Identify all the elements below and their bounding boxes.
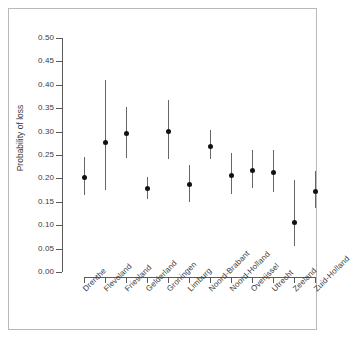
x-tick-label: Zuid-Holland xyxy=(312,254,351,293)
y-tick-label: 0.35 xyxy=(2,104,54,112)
data-point xyxy=(208,144,213,149)
y-tick-label: 0.45 xyxy=(2,57,54,65)
y-tick-label-text: 0.25 xyxy=(6,151,54,159)
data-point xyxy=(103,140,108,145)
data-point xyxy=(313,189,318,194)
data-point xyxy=(82,175,87,180)
y-tick-mark xyxy=(56,61,62,62)
error-bar xyxy=(105,80,106,190)
y-tick-mark xyxy=(56,178,62,179)
y-tick-mark xyxy=(56,132,62,133)
y-tick-label: 0.40 xyxy=(2,81,54,89)
data-point xyxy=(250,168,255,173)
y-tick-label-text: 0.10 xyxy=(6,221,54,229)
y-tick-label: 0.30 xyxy=(2,128,54,136)
y-tick-label-text: 0.20 xyxy=(6,174,54,182)
y-tick-mark xyxy=(56,108,62,109)
y-axis-line xyxy=(62,38,63,272)
y-tick-label: 0.10 xyxy=(2,221,54,229)
error-bar xyxy=(294,180,295,246)
data-point xyxy=(271,170,276,175)
y-tick-label: 0.50 xyxy=(2,34,54,42)
data-point xyxy=(292,220,297,225)
data-point xyxy=(187,182,192,187)
y-tick-label: 0.05 xyxy=(2,245,54,253)
y-tick-label-text: 0.45 xyxy=(6,57,54,65)
y-tick-label-text: 0.40 xyxy=(6,81,54,89)
y-tick-label: 0.25 xyxy=(2,151,54,159)
y-tick-mark xyxy=(56,249,62,250)
y-tick-mark xyxy=(56,272,62,273)
y-tick-label-text: 0.35 xyxy=(6,104,54,112)
data-point xyxy=(145,186,150,191)
y-tick-mark xyxy=(56,155,62,156)
data-point xyxy=(124,131,129,136)
data-point xyxy=(166,129,171,134)
data-point xyxy=(229,173,234,178)
y-tick-label: 0.00 xyxy=(2,268,54,276)
y-tick-label-text: 0.50 xyxy=(6,34,54,42)
y-tick-label-text: 0.15 xyxy=(6,198,54,206)
y-tick-label-text: 0.30 xyxy=(6,128,54,136)
y-tick-mark xyxy=(56,85,62,86)
y-tick-mark xyxy=(56,225,62,226)
y-tick-mark xyxy=(56,38,62,39)
y-tick-mark xyxy=(56,202,62,203)
y-tick-label-text: 0.05 xyxy=(6,245,54,253)
y-tick-label: 0.20 xyxy=(2,174,54,182)
y-tick-label: 0.15 xyxy=(2,198,54,206)
y-tick-label-text: 0.00 xyxy=(6,268,54,276)
